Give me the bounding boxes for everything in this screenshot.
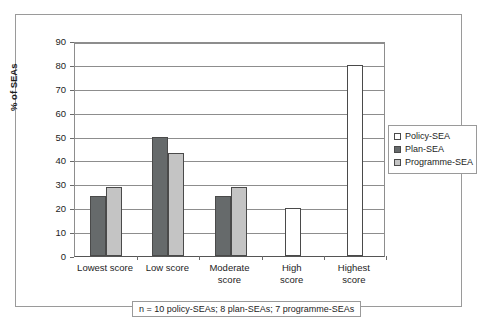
bar-policy-sea-high-score xyxy=(285,208,301,256)
bar-programme-sea-lowest-score xyxy=(106,187,122,256)
bar-programme-sea-moderate-score xyxy=(231,187,247,256)
x-axis-label-line: score xyxy=(261,274,323,286)
y-tick-label: 40 xyxy=(32,156,66,166)
x-axis-tick xyxy=(324,256,325,260)
figure-outer-frame: 0102030405060708090 % of SEAs Lowest sco… xyxy=(15,14,462,307)
y-tick-label: 20 xyxy=(32,204,66,214)
x-axis-label-line: Lowest score xyxy=(74,262,136,274)
x-axis-label-line: Moderate xyxy=(198,262,260,274)
y-tick-mark xyxy=(70,90,74,91)
legend-swatch-icon xyxy=(394,133,401,140)
x-axis-tick xyxy=(262,256,263,260)
bar-policy-sea-highest-score xyxy=(347,65,363,256)
y-tick-label: 70 xyxy=(32,85,66,95)
y-axis-title: % of SEAs xyxy=(8,63,19,111)
plot-area xyxy=(74,42,385,257)
x-axis-label: Moderatescore xyxy=(198,262,260,286)
chart-legend: Policy-SEAPlan-SEAProgramme-SEA xyxy=(388,125,477,174)
y-tick-label: 50 xyxy=(32,133,66,143)
legend-label: Policy-SEA xyxy=(405,132,450,141)
y-tick-mark xyxy=(70,257,74,258)
legend-item-plan-sea[interactable]: Plan-SEA xyxy=(394,143,472,156)
bar-plan-sea-lowest-score xyxy=(90,196,106,256)
x-axis-label-line: Low score xyxy=(136,262,198,274)
x-axis-label-line: Highest xyxy=(323,262,385,274)
gridline xyxy=(75,90,384,91)
x-axis-labels: Lowest scoreLow scoreModeratescoreHighsc… xyxy=(74,262,385,296)
x-axis-label: Highestscore xyxy=(323,262,385,286)
x-axis-tick xyxy=(199,256,200,260)
x-axis-label-line: score xyxy=(198,274,260,286)
footnote-box: n = 10 policy-SEAs; 8 plan-SEAs; 7 progr… xyxy=(132,301,361,317)
y-tick-mark xyxy=(70,161,74,162)
gridline xyxy=(75,161,384,162)
y-tick-mark xyxy=(70,185,74,186)
y-tick-mark xyxy=(70,233,74,234)
y-tick-label: 10 xyxy=(32,228,66,238)
y-tick-label: 90 xyxy=(32,37,66,47)
x-axis-tick xyxy=(137,256,138,260)
y-tick-mark xyxy=(70,66,74,67)
y-tick-mark xyxy=(70,42,74,43)
x-axis-label: Lowest score xyxy=(74,262,136,274)
y-tick-mark xyxy=(70,138,74,139)
bar-plan-sea-moderate-score xyxy=(215,196,231,256)
legend-item-policy-sea[interactable]: Policy-SEA xyxy=(394,130,472,143)
y-tick-mark xyxy=(70,114,74,115)
footnote-text: n = 10 policy-SEAs; 8 plan-SEAs; 7 progr… xyxy=(139,305,354,314)
y-tick-label: 60 xyxy=(32,109,66,119)
x-axis-label-line: High xyxy=(261,262,323,274)
y-tick-label: 80 xyxy=(32,61,66,71)
legend-label: Plan-SEA xyxy=(405,145,444,154)
legend-swatch-icon xyxy=(394,146,401,153)
gridline xyxy=(75,66,384,67)
y-tick-label: 30 xyxy=(32,180,66,190)
x-axis-label-line: score xyxy=(323,274,385,286)
legend-swatch-icon xyxy=(394,159,401,166)
y-tick-label: 0 xyxy=(32,252,66,262)
legend-label: Programme-SEA xyxy=(405,158,473,167)
legend-item-programme-sea[interactable]: Programme-SEA xyxy=(394,156,472,169)
figure-canvas: 0102030405060708090 % of SEAs Lowest sco… xyxy=(0,0,477,324)
gridline xyxy=(75,43,384,44)
y-tick-mark xyxy=(70,209,74,210)
x-axis-label: Highscore xyxy=(261,262,323,286)
gridline xyxy=(75,114,384,115)
bar-programme-sea-low-score xyxy=(168,153,184,256)
x-axis-label: Low score xyxy=(136,262,198,274)
gridline xyxy=(75,138,384,139)
bar-plan-sea-low-score xyxy=(152,137,168,256)
x-axis-tick xyxy=(386,256,387,260)
